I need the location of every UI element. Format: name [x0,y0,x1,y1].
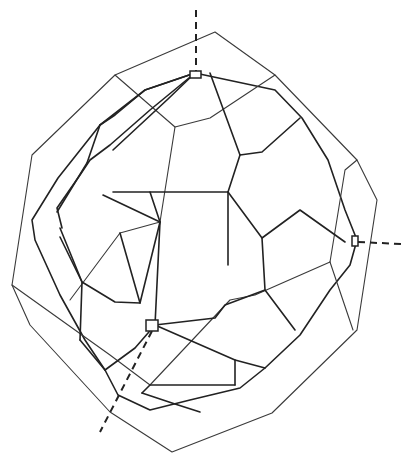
crystal-figure [0,0,409,461]
thin-edge [160,127,175,222]
front-facet [146,320,158,331]
thin-edge [70,222,160,300]
small-facets [146,71,358,331]
outer-habit-outline [12,32,377,452]
front-edge [57,163,87,212]
outer-outline [12,32,377,452]
front-edge [228,192,345,242]
front-edge [228,155,240,265]
front-edge [60,192,160,303]
thin-edge [150,262,330,385]
a-axis-front [100,331,152,432]
front-edge [262,238,295,330]
front-edge [155,290,265,325]
thin-edge [330,262,353,330]
front-edge [155,325,235,385]
b-axis-horizontal [358,242,401,244]
top-facet [190,71,201,78]
front-edge [103,195,160,222]
right-facet [352,236,358,246]
front-edge [57,73,195,228]
front-edge [120,233,140,303]
crystal-axes [100,10,401,432]
front-edge [80,340,105,370]
front-edge [235,360,265,368]
inner-outline [32,73,357,410]
